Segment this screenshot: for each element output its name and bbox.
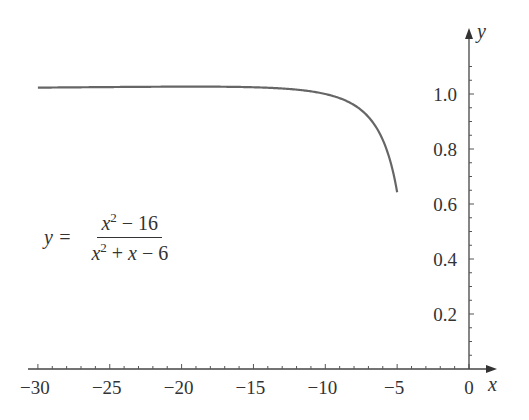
x-tick-label: 0 xyxy=(464,377,474,398)
equation-denominator: x2 + x − 6 xyxy=(87,238,172,265)
x-axis: −30−25−20−15−10−50x xyxy=(20,364,497,398)
x-tick-label: −30 xyxy=(20,377,50,398)
y-tick-label: 0.4 xyxy=(433,249,457,270)
x-tick-label: −5 xyxy=(384,377,404,398)
equation-lhs: y = xyxy=(44,226,71,249)
x-tick-label: −10 xyxy=(307,377,337,398)
x-axis-arrow-icon xyxy=(486,365,497,373)
equation-annotation: y = x2 − 16 x2 + x − 6 xyxy=(44,210,172,264)
y-axis-arrow-icon xyxy=(465,28,473,39)
y-axis-label: y xyxy=(475,20,486,43)
y-axis: 0.20.40.60.81.0y xyxy=(433,20,486,369)
x-tick-label: −15 xyxy=(236,377,266,398)
x-tick-label: −20 xyxy=(164,377,194,398)
y-tick-label: 0.8 xyxy=(433,139,457,160)
y-tick-label: 0.6 xyxy=(433,194,457,215)
y-tick-label: 0.2 xyxy=(433,304,457,325)
equation-numerator: x2 − 16 xyxy=(97,210,162,238)
x-tick-label: −25 xyxy=(92,377,122,398)
y-tick-label: 1.0 xyxy=(433,84,457,105)
equation-fraction: x2 − 16 x2 + x − 6 xyxy=(87,210,172,264)
function-curve xyxy=(38,87,397,193)
x-axis-label: x xyxy=(487,373,497,395)
